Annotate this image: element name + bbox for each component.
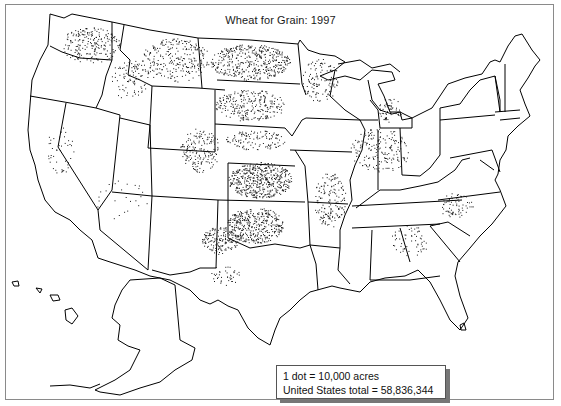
or-id-border: [96, 60, 112, 108]
tn-south-border: [352, 224, 440, 228]
la-tx-border: [310, 245, 318, 290]
hawaii-maui: [50, 295, 60, 301]
nv-ut-border: [96, 108, 120, 210]
state-outlines: [28, 14, 540, 345]
legend-box: 1 dot = 10,000 acres United States total…: [276, 365, 446, 399]
ms-al-border: [370, 230, 372, 280]
in-oh-border: [400, 128, 402, 175]
ut-co-border: [150, 125, 152, 196]
va-wv-border: [438, 158, 470, 182]
map-title: Wheat for Grain: 1997: [0, 14, 561, 26]
nm-co-border: [152, 196, 218, 200]
ms-river: [340, 120, 365, 248]
alaska-outline: [95, 278, 195, 395]
or-ca-nv-border: [30, 96, 96, 108]
us-outline: [28, 14, 540, 345]
hawaii-kauai: [12, 281, 19, 286]
florida-lake: [460, 323, 466, 330]
sd-ne-border: [215, 124, 292, 136]
pa-md-border: [450, 150, 492, 158]
az-nm-border: [148, 196, 152, 270]
mn-ia-border: [306, 118, 360, 120]
id-wy-ut-border: [120, 86, 152, 125]
ut-az-border: [112, 192, 152, 196]
sc-ga-border: [430, 226, 460, 262]
us-state-map: [0, 0, 561, 406]
ny-pa-border: [440, 115, 495, 120]
nm-tx-border: [152, 200, 218, 275]
mo-ks-border: [295, 150, 305, 166]
ky-north-border: [356, 182, 438, 208]
al-ga-border: [400, 228, 410, 262]
va-nc-border: [438, 192, 500, 200]
ks-ok-border: [218, 200, 305, 202]
ne-ks-border: [228, 163, 295, 166]
legend-us-total: United States total = 58,836,344: [283, 383, 439, 397]
hawaii-oahu: [36, 288, 42, 293]
la-ms-border: [338, 248, 350, 284]
nd-sd-border: [217, 80, 300, 84]
md-de: [480, 150, 500, 172]
ny-outline: [440, 76, 500, 120]
hawaii-big: [65, 308, 78, 324]
ca-nv-border: [58, 103, 98, 210]
ma-ct-ri: [495, 110, 520, 120]
ok-ar-border: [305, 166, 310, 245]
wa-or-border: [50, 46, 112, 60]
wy-co-border: [148, 125, 215, 152]
mt-nd-sd-border: [198, 38, 202, 88]
ar-la-border: [310, 245, 340, 248]
alaska-chain: [50, 384, 100, 388]
wheat-dots: [48, 28, 474, 286]
mn-wi-border: [330, 70, 360, 120]
mi-upper: [338, 60, 400, 72]
legend-dot-value: 1 dot = 10,000 acres: [283, 369, 439, 383]
mi-lower: [368, 80, 412, 128]
ia-mo-border: [290, 150, 352, 152]
mt-wy-border: [152, 86, 225, 90]
nd-mn-border: [298, 44, 306, 95]
ne-ia-border: [292, 118, 306, 136]
mo-ar-border: [308, 202, 348, 204]
